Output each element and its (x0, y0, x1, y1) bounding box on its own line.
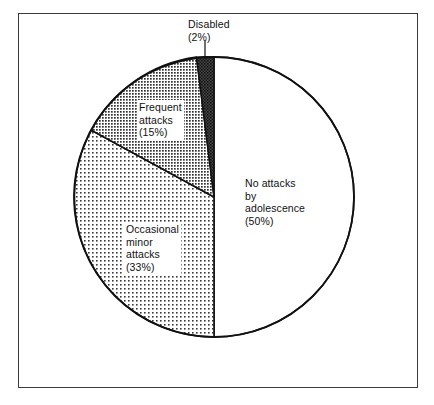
pie-label-occasional-minor-attacks: Occasional minor attacks (33%) (124, 222, 181, 274)
figure: No attacks by adolescence (50%) Frequent… (0, 0, 434, 405)
pie-label-no-attacks: No attacks by adolescence (50%) (243, 176, 307, 228)
pie-chart (0, 0, 434, 405)
pie-label-disabled: Disabled (2%) (186, 17, 232, 44)
pie-label-frequent-attacks: Frequent attacks (15%) (137, 100, 184, 140)
